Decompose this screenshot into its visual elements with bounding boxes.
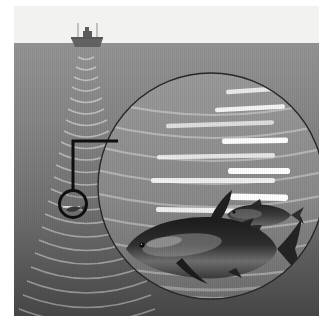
sky-region	[14, 6, 319, 43]
sonar-scene	[14, 6, 319, 316]
boat-cabin	[83, 31, 92, 38]
scanline-texture	[14, 43, 319, 316]
illustration-canvas	[0, 0, 334, 331]
sonar-diagram-svg	[14, 6, 319, 316]
